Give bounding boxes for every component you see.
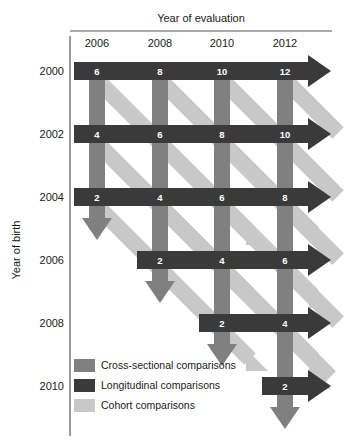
age-value: 8 [282, 192, 287, 203]
age-value: 12 [280, 66, 291, 77]
y-tick-label: 2002 [40, 128, 64, 140]
age-value: 2 [94, 192, 99, 203]
age-value: 2 [157, 255, 162, 266]
age-value: 6 [157, 129, 162, 140]
cross-sectional-arrowhead-2006 [82, 218, 112, 240]
x-axis-title: Year of evaluation [157, 12, 245, 24]
lexis-diagram: 6 8 10 12 4 6 8 10 2 4 6 8 2 4 6 2 4 2 Y… [0, 0, 347, 441]
age-value: 2 [219, 318, 224, 329]
y-tick-label: 2010 [40, 380, 64, 392]
age-value: 4 [94, 129, 100, 140]
age-value: 8 [219, 129, 224, 140]
y-tick-labels: 2000 2002 2004 2006 2008 2010 [40, 65, 64, 392]
cross-sectional-arrowhead-2012 [270, 407, 300, 429]
age-value: 6 [282, 255, 287, 266]
y-tick-label: 2000 [40, 65, 64, 77]
x-tick-label: 2012 [273, 37, 297, 49]
legend: Cross-sectional comparisons Longitudinal… [74, 359, 236, 412]
longitudinal-arrowhead [308, 55, 331, 87]
cohort-arrowhead-2 [309, 286, 331, 308]
cross-sectional-arrowhead-2008 [145, 281, 175, 303]
age-value: 8 [157, 66, 162, 77]
age-value: 6 [219, 192, 224, 203]
legend-label-cohort: Cohort comparisons [101, 399, 195, 411]
age-value: 4 [282, 318, 288, 329]
y-tick-label: 2006 [40, 254, 64, 266]
age-value: 6 [94, 66, 99, 77]
legend-label-longitudinal: Longitudinal comparisons [101, 379, 220, 391]
x-tick-labels: 2006 2008 2010 2012 [85, 37, 297, 49]
legend-swatch-cross-sectional [74, 359, 95, 372]
cross-sectional-bar-2012 [277, 62, 293, 407]
age-value: 4 [219, 255, 225, 266]
x-tick-label: 2006 [85, 37, 109, 49]
y-tick-label: 2008 [40, 317, 64, 329]
longitudinal-bar [74, 62, 308, 80]
age-value: 10 [217, 66, 228, 77]
age-value: 4 [157, 192, 163, 203]
longitudinal-bar [199, 314, 308, 332]
legend-label-cross-sectional: Cross-sectional comparisons [101, 359, 236, 371]
legend-swatch-cohort [74, 399, 95, 412]
x-tick-label: 2008 [148, 37, 172, 49]
age-value: 2 [282, 381, 287, 392]
longitudinal-bar [74, 188, 308, 206]
legend-swatch-longitudinal [74, 379, 95, 392]
age-value: 10 [280, 129, 291, 140]
y-tick-label: 2004 [40, 191, 64, 203]
longitudinal-bar [74, 125, 308, 143]
x-tick-label: 2010 [210, 37, 234, 49]
y-axis-title: Year of birth [10, 221, 22, 280]
diagram-canvas: 6 8 10 12 4 6 8 10 2 4 6 8 2 4 6 2 4 2 Y… [0, 0, 347, 441]
cross-sectional-bar-2008 [152, 62, 168, 281]
